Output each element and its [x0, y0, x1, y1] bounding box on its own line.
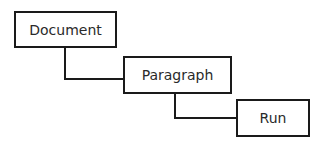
node-label: Document: [29, 22, 102, 38]
node-label: Paragraph: [142, 67, 214, 83]
connector-paragraph-run: [175, 93, 236, 118]
node-run: Run: [236, 99, 310, 137]
connector-document-paragraph: [65, 47, 123, 79]
node-paragraph: Paragraph: [123, 56, 232, 94]
node-document: Document: [14, 11, 117, 48]
node-label: Run: [260, 110, 287, 126]
